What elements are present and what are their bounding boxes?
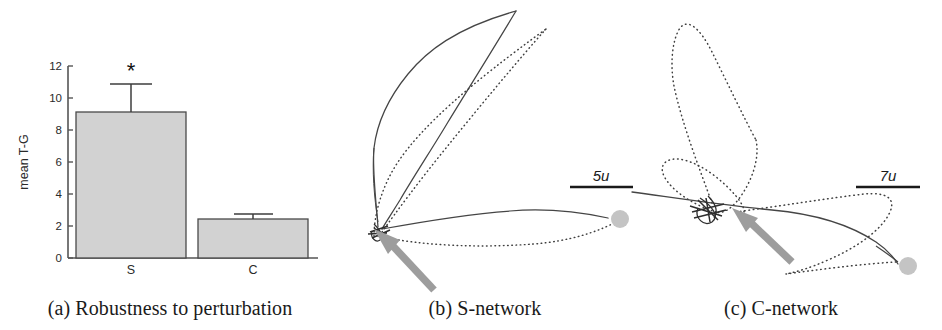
- y-tick-label-4: 4: [56, 188, 63, 200]
- y-tick-label-0: 0: [56, 252, 62, 264]
- y-tick-label-8: 8: [56, 124, 62, 136]
- trajectory-dotted-lower: [378, 224, 612, 246]
- bar-chart-svg: 0 2 4 6 8 10 12 mean T-G *: [0, 0, 340, 300]
- start-arrow-icon: [374, 229, 434, 290]
- y-tick-label-2: 2: [56, 220, 62, 232]
- panel-a-caption: (a) Robustness to perturbation: [0, 297, 340, 320]
- trajectory-solid-sweep: [632, 192, 898, 264]
- y-tick-label-6: 6: [56, 156, 62, 168]
- start-arrow-icon: [732, 208, 792, 262]
- bar-c: [198, 219, 308, 258]
- figure-root: 0 2 4 6 8 10 12 mean T-G *: [0, 0, 942, 330]
- x-tick-label-c: C: [248, 263, 257, 277]
- scale-bar-label: 5u: [593, 167, 610, 184]
- panel-b-caption: (b) S-network: [330, 297, 640, 320]
- panel-c-caption: (c) C-network: [620, 297, 942, 320]
- trajectory-dotted-return: [382, 29, 546, 232]
- trajectory-dotted-left-lobe: [662, 159, 744, 216]
- trajectory-dotted-tall-loop: [672, 24, 756, 203]
- panel-a-bar-chart: 0 2 4 6 8 10 12 mean T-G *: [0, 0, 340, 330]
- panel-c-trajectory: 7u (c) C-network: [620, 0, 942, 330]
- target-marker: [899, 257, 917, 275]
- error-bar-c: [234, 214, 273, 219]
- trajectory-solid-tail: [876, 246, 898, 262]
- trajectory-dotted-tail: [786, 262, 896, 274]
- trajectory-solid-lower: [382, 210, 608, 229]
- y-tick-label-12: 12: [49, 60, 62, 72]
- trajectory-dotted-loop-close: [716, 140, 757, 213]
- trajectory-dotted-upper: [374, 29, 546, 236]
- c-network-svg: 7u: [620, 0, 942, 300]
- trajectory-origin-cluster: [690, 196, 726, 223]
- error-bar-s: [110, 84, 152, 112]
- significance-star: *: [127, 58, 136, 83]
- s-network-svg: 5u: [330, 0, 640, 300]
- y-tick-label-10: 10: [49, 92, 62, 104]
- bar-s: [76, 112, 186, 258]
- y-axis-title: mean T-G: [17, 134, 31, 189]
- scale-bar-label: 7u: [880, 167, 897, 184]
- trajectory-solid-upper-left: [373, 11, 516, 227]
- panel-b-trajectory: 5u (b) S-network: [330, 0, 640, 330]
- x-tick-label-s: S: [127, 263, 135, 277]
- trajectory-solid-upper-right: [382, 11, 516, 229]
